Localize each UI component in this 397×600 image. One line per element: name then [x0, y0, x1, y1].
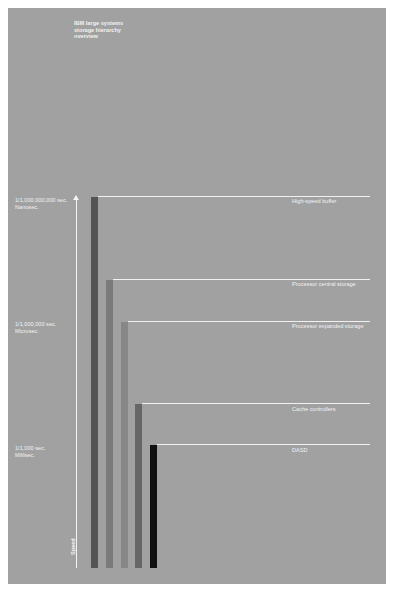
tick-value: 1/1,000,000 sec.: [15, 321, 56, 328]
level-line-processor-expanded-storage: [128, 321, 370, 322]
diagram-panel: [8, 8, 386, 584]
tick-value: 1/1,000,000,000 sec.: [15, 197, 67, 204]
level-label-processor-central-storage: Processor central storage: [292, 281, 356, 288]
bar-dasd: [150, 445, 157, 568]
level-line-high-speed-buffer: [98, 196, 370, 197]
tick-label-microsec: 1/1,000,000 sec. Microsec.: [15, 321, 56, 335]
tick-label-millisec: 1/1,000 sec. Millisec.: [15, 445, 45, 459]
bar-processor-expanded-storage: [121, 322, 128, 568]
tick-unit: Millisec.: [15, 452, 45, 459]
tick-value: 1/1,000 sec.: [15, 445, 45, 452]
speed-axis-line: [76, 199, 77, 568]
level-label-high-speed-buffer: High-speed buffer: [292, 198, 336, 205]
level-label-cache-controllers: Cache controllers: [292, 406, 336, 413]
level-line-cache-controllers: [142, 403, 370, 404]
level-line-dasd: [157, 444, 370, 445]
tick-unit: Nanosec.: [15, 204, 67, 211]
level-line-processor-central-storage: [113, 279, 370, 280]
bar-processor-central-storage: [106, 280, 113, 568]
level-label-processor-expanded-storage: Processor expanded storage: [292, 323, 364, 330]
tick-unit: Microsec.: [15, 328, 56, 335]
bar-cache-controllers: [135, 404, 142, 568]
level-label-dasd: DASD: [292, 447, 308, 454]
speed-axis-label: Speed: [70, 538, 76, 555]
diagram-title: IBM large systems storage hierarchy over…: [74, 20, 154, 40]
tick-label-nanosec: 1/1,000,000,000 sec. Nanosec.: [15, 197, 67, 211]
bar-high-speed-buffer: [91, 197, 98, 568]
